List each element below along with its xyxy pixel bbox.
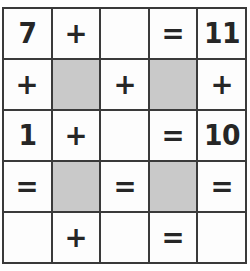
grid-cell[interactable]: +	[53, 213, 100, 262]
number-value: 7	[18, 20, 36, 48]
grid-cell[interactable]: =	[101, 162, 148, 211]
operator-glyph: =	[162, 121, 185, 150]
grid-cell[interactable]: +	[198, 60, 245, 109]
grid-cell-blocked	[150, 162, 197, 211]
grid-cell[interactable]	[101, 9, 148, 58]
grid-cell[interactable]: +	[53, 111, 100, 160]
grid-cell-blocked	[53, 60, 100, 109]
grid-cell[interactable]: 11	[198, 9, 245, 58]
operator-glyph: +	[113, 70, 136, 99]
number-value: 10	[204, 122, 240, 150]
grid-cell[interactable]	[101, 111, 148, 160]
grid-cell[interactable]	[198, 213, 245, 262]
grid-cell[interactable]: =	[150, 111, 197, 160]
grid-cell[interactable]	[4, 213, 51, 262]
operator-glyph: +	[65, 223, 88, 252]
number-value: 11	[204, 20, 240, 48]
operator-glyph: =	[210, 172, 233, 201]
operator-glyph: =	[162, 19, 185, 48]
number-value: 1	[18, 122, 36, 150]
operator-glyph: =	[16, 172, 39, 201]
grid-cell[interactable]: +	[101, 60, 148, 109]
grid-cell[interactable]: +	[53, 9, 100, 58]
grid-cell[interactable]: =	[198, 162, 245, 211]
grid-cell[interactable]: 10	[198, 111, 245, 160]
grid-cell[interactable]: =	[4, 162, 51, 211]
grid-cell[interactable]	[101, 213, 148, 262]
operator-glyph: +	[65, 121, 88, 150]
grid-cell-blocked	[150, 60, 197, 109]
operator-glyph: =	[113, 172, 136, 201]
operator-glyph: +	[65, 19, 88, 48]
operator-glyph: +	[210, 70, 233, 99]
grid-cell[interactable]: 1	[4, 111, 51, 160]
grid-cell[interactable]: 7	[4, 9, 51, 58]
operator-glyph: +	[16, 70, 39, 99]
math-puzzle-grid-container: 7+=11+++1+=10===+=	[0, 0, 250, 271]
grid-cell[interactable]: +	[4, 60, 51, 109]
grid-cell[interactable]: =	[150, 9, 197, 58]
operator-glyph: =	[162, 223, 185, 252]
grid-cell-blocked	[53, 162, 100, 211]
grid-cell[interactable]: =	[150, 213, 197, 262]
math-puzzle-grid: 7+=11+++1+=10===+=	[2, 7, 247, 264]
